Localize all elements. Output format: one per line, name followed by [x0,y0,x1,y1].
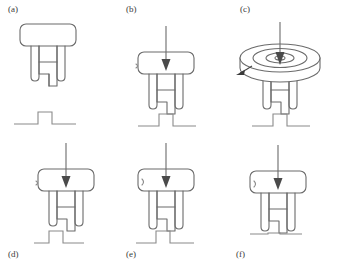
terrain-profile-icon [138,114,196,126]
terrain-profile-icon [14,112,76,124]
panel-a: (a) [0,0,113,136]
figure-root: (a) [0,0,341,273]
body-marker-icon [136,64,138,68]
panel-label-a: (a) [8,4,18,14]
robot-body-icon [20,24,76,46]
robot-legs-icon [57,46,65,81]
panel-label-f: (f) [236,249,245,259]
terrain-profile-icon [252,114,310,126]
downward-arrow-icon [274,145,283,190]
terrain-profile-icon [34,231,84,243]
robot-legs-icon [149,191,157,229]
panel-d: (d) [0,137,113,273]
panel-c: (c) [232,0,341,136]
body-marker-icon [142,179,144,185]
robot-legs-icon [175,74,183,109]
panel-b-drawing [118,0,231,136]
robot-legs-icon [269,193,287,233]
panel-label-e: (e) [126,249,136,259]
robot-legs-icon [157,191,175,231]
panel-c-drawing [232,0,341,136]
robot-legs-icon [31,46,39,81]
panel-label-d: (d) [8,249,19,259]
panel-a-drawing [0,0,113,136]
panel-label-b: (b) [126,4,137,14]
body-marker-icon [254,181,256,187]
terrain-profile-icon [250,233,302,234]
robot-legs-icon [261,193,269,231]
robot-legs-icon [149,74,157,109]
robot-legs-icon [157,74,175,114]
robot-legs-icon [287,193,295,231]
robot-legs-icon [175,191,183,229]
downward-arrow-icon [162,143,171,188]
terrain-profile-icon [136,231,194,243]
panel-label-c: (c) [240,4,250,14]
downward-arrow-icon [62,143,71,188]
robot-legs-icon [49,191,57,226]
robot-legs-icon [75,191,83,226]
robot-legs-icon [39,46,57,86]
body-marker-icon [36,181,38,185]
downward-arrow-icon [162,26,171,71]
robot-legs-icon [57,191,75,231]
panel-e: (e) [118,137,231,273]
panel-b: (b) [118,0,231,136]
panel-f: (f) [228,137,341,273]
